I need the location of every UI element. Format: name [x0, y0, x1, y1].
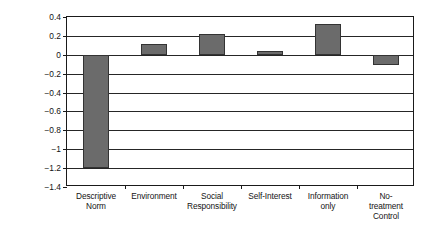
- bar: [83, 55, 109, 168]
- gridline: [67, 36, 413, 37]
- x-tick-mark: [241, 185, 242, 189]
- gridline: [67, 74, 413, 75]
- y-tick-mark: [63, 111, 67, 112]
- y-tick-label: −1.2: [44, 163, 61, 173]
- y-tick-mark: [63, 168, 67, 169]
- x-category-label: Environment: [131, 191, 176, 201]
- x-tick-mark: [183, 185, 184, 189]
- y-tick-label: 0: [56, 50, 61, 60]
- y-tick-label: −1: [51, 144, 61, 154]
- y-tick-label: −0.4: [44, 88, 61, 98]
- x-category-label: Descriptive Norm: [76, 191, 116, 211]
- bar: [257, 51, 283, 55]
- y-tick-label: −1.4: [44, 182, 61, 192]
- gridline: [67, 111, 413, 112]
- x-tick-mark: [125, 185, 126, 189]
- gridline: [67, 130, 413, 131]
- bar: [373, 55, 399, 65]
- x-category-label: Social Responsibility: [187, 191, 237, 211]
- x-tick-mark: [357, 185, 358, 189]
- gridline: [67, 149, 413, 150]
- y-tick-mark: [63, 74, 67, 75]
- chart-figure: Change in Daily Energy Consumption 0.40.…: [0, 0, 424, 227]
- y-tick-mark: [63, 130, 67, 131]
- y-tick-mark: [63, 93, 67, 94]
- x-category-label: No-treatment Control: [369, 191, 403, 222]
- x-category-label: Information only: [308, 191, 348, 211]
- y-tick-mark: [63, 55, 67, 56]
- y-tick-label: −0.6: [44, 106, 61, 116]
- y-tick-label: −0.2: [44, 69, 61, 79]
- y-tick-label: 0.2: [49, 31, 61, 41]
- bar: [141, 44, 167, 54]
- plot-area: 0.40.20−0.2−0.4−0.6−0.8−1−1.2−1.4 Descri…: [66, 16, 414, 186]
- x-tick-mark: [299, 185, 300, 189]
- zero-line: [67, 55, 413, 56]
- y-tick-label: −0.8: [44, 125, 61, 135]
- x-category-label: Self-Interest: [248, 191, 291, 201]
- bar: [315, 24, 341, 55]
- gridline: [67, 168, 413, 169]
- y-tick-mark: [63, 187, 67, 188]
- y-tick-mark: [63, 149, 67, 150]
- gridline: [67, 93, 413, 94]
- y-tick-mark: [63, 36, 67, 37]
- bar: [199, 34, 225, 55]
- y-tick-label: 0.4: [49, 12, 61, 22]
- y-tick-mark: [63, 17, 67, 18]
